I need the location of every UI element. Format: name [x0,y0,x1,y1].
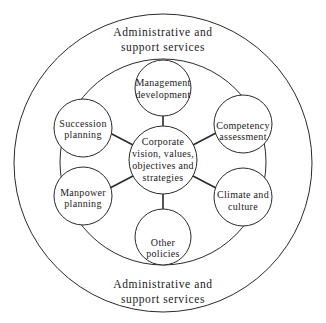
node-label-line1: Other [151,237,176,248]
center-label-line2: vision, values, [132,148,194,159]
node-management-development: Management development [135,60,191,116]
spoke-competency [193,133,216,145]
center-label-line4: strategies [143,172,184,183]
spoke-manpower [110,176,133,188]
node-label-line1: Succession [59,118,106,129]
node-other-policies: Other policies [135,209,191,265]
outer-label-top-line1: Administrative and [113,26,212,38]
outer-label-top-line2: support services [121,41,205,54]
node-label-line1: Climate and [217,189,269,200]
node-label-line1: Competency [216,120,270,131]
outer-label-bottom-line1: Administrative and [113,278,212,290]
node-label-line1: Manpower [60,187,106,198]
center-label-line3: objectives and [132,160,194,171]
node-label-line1: Management [135,77,190,88]
center-node: Corporate vision, values, objectives and… [129,126,197,194]
node-competency-assessment: Competency assessment [214,95,272,153]
node-label-line2: planning [64,198,101,209]
node-climate-and-culture: Climate and culture [214,168,272,226]
spoke-climate [193,176,216,188]
spoke-succession [110,133,133,145]
node-label-line2: planning [64,129,101,140]
node-label-line2: policies [146,248,180,259]
node-label-line2: development [136,89,191,100]
hr-framework-diagram: Administrative and support services Admi… [0,0,326,323]
outer-label-bottom-line2: support services [121,293,205,306]
node-label-line2: culture [228,201,258,212]
node-succession-planning: Succession planning [54,99,112,157]
node-manpower-planning: Manpower planning [54,167,112,225]
center-label-line1: Corporate [142,136,185,147]
node-label-line2: assessment [219,131,266,142]
